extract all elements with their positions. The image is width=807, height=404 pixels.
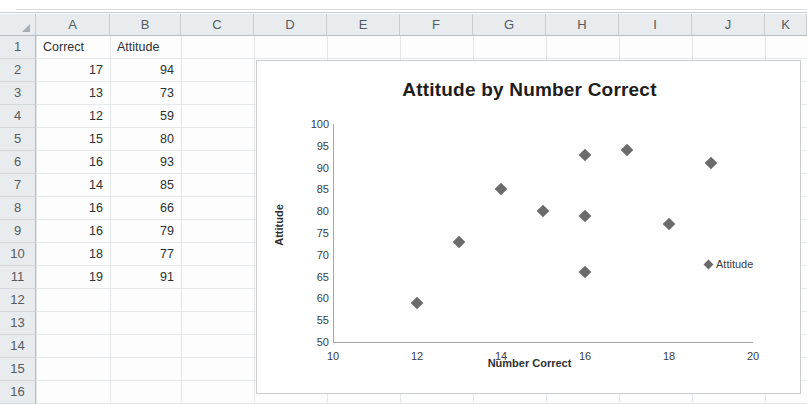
x-tick-label: 16: [565, 350, 605, 362]
y-axis-line: [333, 124, 334, 342]
y-tick-label: 80: [299, 206, 329, 217]
row-header-7[interactable]: 7: [0, 174, 36, 197]
select-all-triangle-icon: [22, 24, 30, 32]
data-point[interactable]: [621, 144, 634, 157]
x-tick-label: 18: [649, 350, 689, 362]
cell-b3[interactable]: 73: [110, 82, 181, 105]
data-point[interactable]: [453, 235, 466, 248]
column-header-j[interactable]: J: [692, 14, 765, 35]
y-tick-label: 70: [299, 250, 329, 261]
column-header-d[interactable]: D: [254, 14, 327, 35]
row-header-4[interactable]: 4: [0, 105, 36, 128]
column-header-c[interactable]: C: [181, 14, 254, 35]
scatter-chart-object[interactable]: Attitude by Number Correct Attitude Numb…: [256, 60, 801, 394]
row-header-11[interactable]: 11: [0, 266, 36, 289]
x-tick-label: 14: [481, 350, 521, 362]
data-point[interactable]: [579, 266, 592, 279]
y-axis-title: Attitude: [268, 185, 290, 275]
cell-b8[interactable]: 66: [110, 197, 181, 220]
chart-title: Attitude by Number Correct: [257, 79, 802, 101]
cell-a4[interactable]: 12: [36, 105, 110, 128]
y-tick-label: 85: [299, 184, 329, 195]
y-tick-label: 90: [299, 163, 329, 174]
y-tick-label: 60: [299, 293, 329, 304]
legend-label: Attitude: [716, 258, 753, 270]
sheet-top-strip: [0, 0, 807, 14]
row-header-10[interactable]: 10: [0, 243, 36, 266]
cell-a5[interactable]: 15: [36, 128, 110, 151]
cell-a2[interactable]: 17: [36, 59, 110, 82]
cell-b2[interactable]: 94: [110, 59, 181, 82]
row-header-6[interactable]: 6: [0, 151, 36, 174]
row-header-9[interactable]: 9: [0, 220, 36, 243]
cell-a7[interactable]: 14: [36, 174, 110, 197]
grid-column-line: [254, 36, 255, 404]
row-header-3[interactable]: 3: [0, 82, 36, 105]
data-point[interactable]: [495, 183, 508, 196]
data-point[interactable]: [579, 148, 592, 161]
row-header-8[interactable]: 8: [0, 197, 36, 220]
y-tick-label: 65: [299, 272, 329, 283]
cell-b10[interactable]: 77: [110, 243, 181, 266]
cell-b9[interactable]: 79: [110, 220, 181, 243]
column-header-i[interactable]: I: [619, 14, 692, 35]
column-header-b[interactable]: B: [110, 14, 181, 35]
column-header-k[interactable]: K: [765, 14, 807, 35]
cell-b1[interactable]: Attitude: [110, 36, 181, 59]
select-all-button[interactable]: [0, 14, 36, 35]
row-header-2[interactable]: 2: [0, 59, 36, 82]
column-header-f[interactable]: F: [400, 14, 473, 35]
y-tick-label: 75: [299, 228, 329, 239]
column-header-g[interactable]: G: [473, 14, 546, 35]
row-header-16[interactable]: 16: [0, 381, 36, 404]
cell-a9[interactable]: 16: [36, 220, 110, 243]
legend-diamond-icon: [704, 259, 714, 269]
x-tick-label: 12: [397, 350, 437, 362]
y-tick-label: 100: [299, 119, 329, 130]
x-tick-label: 10: [313, 350, 353, 362]
cell-a10[interactable]: 18: [36, 243, 110, 266]
y-tick-label: 50: [299, 337, 329, 348]
y-axis-title-text: Attitude: [273, 180, 285, 270]
top-divider-line: [16, 9, 807, 10]
cell-b11[interactable]: 91: [110, 266, 181, 289]
cell-b5[interactable]: 80: [110, 128, 181, 151]
data-point[interactable]: [411, 296, 424, 309]
row-header-14[interactable]: 14: [0, 335, 36, 358]
excel-worksheet-screenshot: ABCDEFGHIJK 12345678910111213141516Corre…: [0, 0, 807, 404]
column-header-e[interactable]: E: [327, 14, 400, 35]
row-header-5[interactable]: 5: [0, 128, 36, 151]
row-header-13[interactable]: 13: [0, 312, 36, 335]
column-header-row[interactable]: ABCDEFGHIJK: [0, 14, 807, 36]
cell-a3[interactable]: 13: [36, 82, 110, 105]
data-point[interactable]: [537, 205, 550, 218]
row-header-15[interactable]: 15: [0, 358, 36, 381]
x-tick-label: 20: [733, 350, 773, 362]
cell-b4[interactable]: 59: [110, 105, 181, 128]
row-header-12[interactable]: 12: [0, 289, 36, 312]
cell-b6[interactable]: 93: [110, 151, 181, 174]
column-header-a[interactable]: A: [36, 14, 110, 35]
y-tick-label: 55: [299, 315, 329, 326]
chart-legend[interactable]: Attitude: [705, 258, 753, 270]
grid-column-line: [181, 36, 182, 404]
x-axis-line: [333, 342, 753, 343]
data-point[interactable]: [579, 209, 592, 222]
cell-a11[interactable]: 19: [36, 266, 110, 289]
data-point[interactable]: [663, 218, 676, 231]
y-tick-label: 95: [299, 141, 329, 152]
row-header-1[interactable]: 1: [0, 36, 36, 59]
data-point[interactable]: [705, 157, 718, 170]
cell-a8[interactable]: 16: [36, 197, 110, 220]
cell-b7[interactable]: 85: [110, 174, 181, 197]
cell-a1[interactable]: Correct: [36, 36, 110, 59]
top-divider-line-secondary: [0, 12, 807, 13]
column-header-h[interactable]: H: [546, 14, 619, 35]
plot-area[interactable]: 10095908580757065605550101214161820: [333, 124, 753, 342]
cell-a6[interactable]: 16: [36, 151, 110, 174]
